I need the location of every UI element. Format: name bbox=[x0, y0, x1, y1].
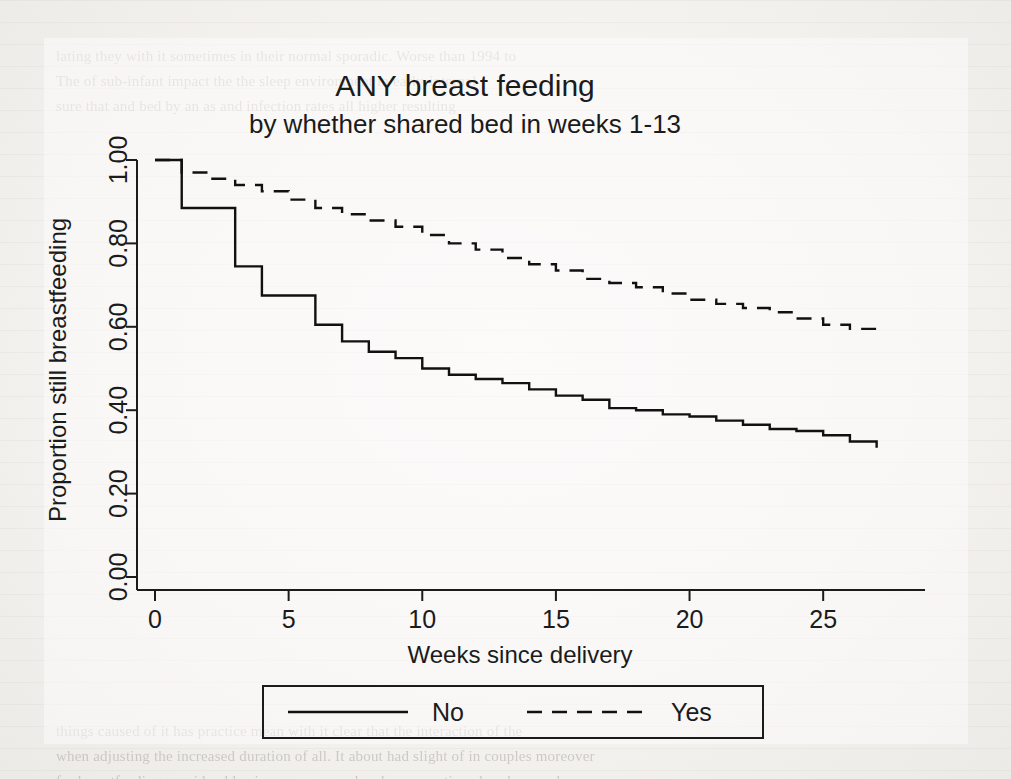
legend-label-no: No bbox=[432, 698, 464, 726]
chart-canvas: ANY breast feeding by whether shared bed… bbox=[0, 0, 1011, 779]
x-axis-tick-labels: 0510152025 bbox=[148, 605, 837, 633]
legend-box: NoYes bbox=[263, 686, 763, 738]
series-line-yes bbox=[155, 160, 877, 333]
y-axis-tick-labels: 0.000.200.400.600.801.00 bbox=[104, 136, 132, 602]
chart-title: ANY breast feeding bbox=[335, 69, 595, 102]
legend-entries: NoYes bbox=[288, 698, 712, 726]
x-tick-label: 10 bbox=[408, 605, 436, 633]
chart-titles: ANY breast feeding by whether shared bed… bbox=[249, 69, 681, 139]
series-line-no bbox=[155, 160, 877, 448]
x-tick-label: 5 bbox=[282, 605, 296, 633]
axis-lines bbox=[126, 160, 925, 601]
x-tick-label: 20 bbox=[676, 605, 704, 633]
x-tick-label: 25 bbox=[809, 605, 837, 633]
legend-label-yes: Yes bbox=[671, 698, 712, 726]
y-axis-title: Proportion still breastfeeding bbox=[44, 218, 71, 522]
series-lines bbox=[155, 160, 877, 448]
x-tick-label: 0 bbox=[148, 605, 162, 633]
x-tick-label: 15 bbox=[542, 605, 570, 633]
chart-subtitle: by whether shared bed in weeks 1-13 bbox=[249, 109, 681, 139]
x-axis-title: Weeks since delivery bbox=[408, 641, 633, 668]
survival-chart: ANY breast feeding by whether shared bed… bbox=[0, 0, 1011, 779]
